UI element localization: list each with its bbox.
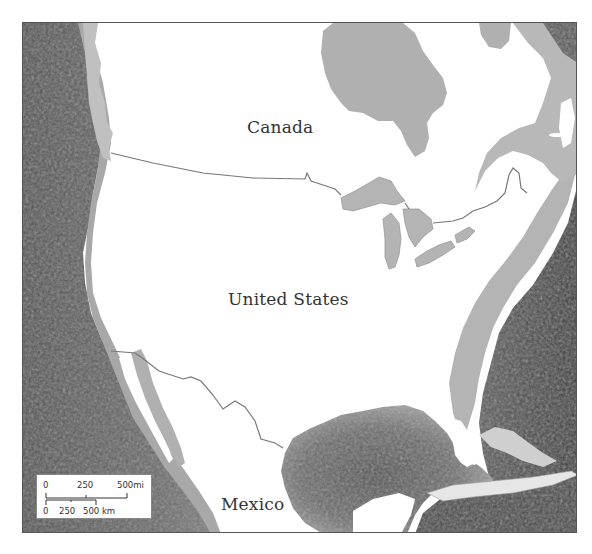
label-united-states: United States bbox=[228, 289, 349, 309]
label-canada: Canada bbox=[247, 117, 313, 137]
lake-michigan bbox=[383, 213, 401, 269]
scale-km-0: 0 bbox=[43, 506, 48, 516]
scale-mi-250: 250 bbox=[77, 480, 93, 490]
scale-bar: 0 250 500mi 0 250 500 km bbox=[36, 474, 152, 519]
map-frame: Canada United States Mexico 0 250 500mi … bbox=[22, 22, 577, 533]
pacific-ocean bbox=[23, 23, 213, 533]
label-mexico: Mexico bbox=[221, 494, 284, 514]
scale-mi-500: 500mi bbox=[117, 480, 144, 490]
ungava-bay bbox=[479, 23, 511, 49]
scale-km-500: 500 km bbox=[83, 506, 115, 516]
map-canvas bbox=[23, 23, 577, 533]
scale-mi-0: 0 bbox=[43, 480, 48, 490]
scale-km-250: 250 bbox=[59, 506, 75, 516]
hudson-bay bbox=[321, 23, 447, 157]
anticosti-island bbox=[549, 133, 565, 137]
us-canada-border bbox=[111, 153, 527, 223]
lake-superior bbox=[341, 177, 405, 211]
lake-ontario bbox=[455, 227, 475, 243]
lake-erie bbox=[415, 241, 455, 267]
lake-huron bbox=[403, 209, 433, 247]
nova-scotia bbox=[523, 171, 549, 195]
